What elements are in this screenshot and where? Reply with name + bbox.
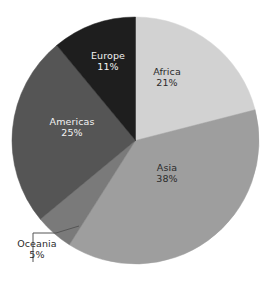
pie-chart: Africa 21% Asia 38% Oceania 5% Americas … — [0, 0, 272, 284]
pie-chart-canvas — [0, 0, 272, 284]
pie-slice-group — [12, 17, 259, 264]
